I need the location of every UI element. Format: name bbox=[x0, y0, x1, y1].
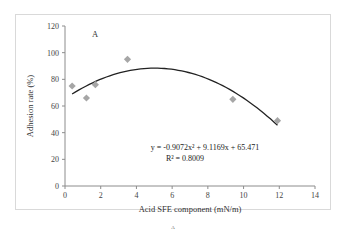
y-tick-label: 80 bbox=[51, 75, 59, 84]
y-tick-label: 100 bbox=[47, 49, 59, 58]
y-tick-label: 0 bbox=[55, 182, 59, 191]
r-squared: R² = 0.8009 bbox=[166, 154, 204, 163]
trendline-equation: y = -0.9072x² + 9.1169x + 65.471 bbox=[151, 143, 259, 152]
y-tick-label: 60 bbox=[51, 102, 59, 111]
x-tick-label: 0 bbox=[63, 191, 67, 200]
panel-label: A bbox=[92, 29, 99, 39]
figure-caption: A bbox=[0, 225, 346, 230]
x-tick-label: 6 bbox=[170, 191, 174, 200]
data-point-diamond bbox=[83, 94, 90, 101]
y-tick-label: 40 bbox=[51, 129, 59, 138]
y-tick-label: 20 bbox=[51, 155, 59, 164]
data-point-diamond bbox=[124, 56, 131, 63]
data-point-diamond bbox=[229, 96, 236, 103]
x-tick-label: 12 bbox=[275, 191, 283, 200]
trendline bbox=[72, 68, 277, 125]
x-tick-label: 2 bbox=[99, 191, 103, 200]
scatter-chart: 02040608010012002468101214Acid SFE compo… bbox=[0, 0, 346, 244]
x-tick-label: 8 bbox=[206, 191, 210, 200]
x-tick-label: 14 bbox=[311, 191, 319, 200]
x-tick-label: 4 bbox=[134, 191, 138, 200]
y-tick-label: 120 bbox=[47, 22, 59, 31]
data-point-diamond bbox=[69, 82, 76, 89]
y-axis-label: Adhesion rate (%) bbox=[25, 75, 35, 137]
x-tick-label: 10 bbox=[240, 191, 248, 200]
x-axis-label: Acid SFE component (mN/m) bbox=[139, 204, 242, 214]
